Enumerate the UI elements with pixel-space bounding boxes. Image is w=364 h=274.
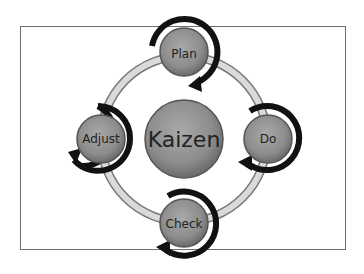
do-label: Do [260,132,277,146]
plan-label: Plan [171,47,197,61]
check-label: Check [166,217,203,231]
kaizen-label: Kaizen [148,127,221,152]
adjust-label: Adjust [82,132,120,146]
